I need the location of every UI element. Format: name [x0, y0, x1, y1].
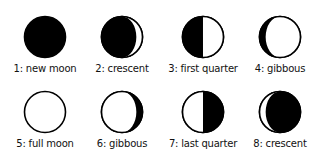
- phase-label: 4: gibbous: [241, 63, 316, 74]
- phase-last-quarter: 7: last quarter: [164, 89, 242, 154]
- moon-icon: [99, 89, 145, 135]
- moon-icon: [180, 89, 226, 135]
- phase-label: 2: crescent: [83, 63, 161, 74]
- phase-label: 3: first quarter: [164, 63, 242, 74]
- moon-disc: [25, 92, 66, 133]
- phase-label: 1: new moon: [6, 63, 84, 74]
- phase-label: 5: full moon: [6, 138, 84, 149]
- moon-icon: [22, 14, 68, 60]
- phase-gibbous-waning: 6: gibbous: [83, 89, 161, 154]
- moon-icon: [180, 14, 226, 60]
- moon-icon: [22, 89, 68, 135]
- moon-icon: [257, 89, 303, 135]
- phase-full-moon: 5: full moon: [6, 89, 84, 154]
- phase-crescent-waxing: 2: crescent: [83, 14, 161, 86]
- phase-new-moon: 1: new moon: [6, 14, 84, 86]
- moon-disc: [25, 17, 66, 58]
- moon-icon: [257, 14, 303, 60]
- phase-first-quarter: 3: first quarter: [164, 14, 242, 86]
- phase-gibbous-waxing: 4: gibbous: [241, 14, 316, 86]
- moon-icon: [99, 14, 145, 60]
- phase-crescent-waning: 8: crescent: [241, 89, 316, 154]
- phase-label: 6: gibbous: [83, 138, 161, 149]
- moon-lit-region: [203, 17, 224, 58]
- phase-label: 8: crescent: [241, 138, 316, 149]
- phase-label: 7: last quarter: [164, 138, 242, 149]
- moon-lit-region: [183, 92, 204, 133]
